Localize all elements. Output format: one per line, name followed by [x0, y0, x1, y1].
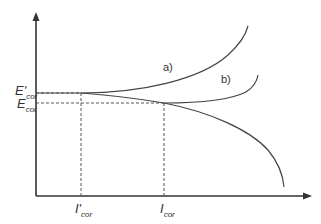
i-prime-cor-sub: cor: [81, 210, 92, 219]
x-axis-arrow-icon: [303, 193, 312, 200]
curve-cathodic: [81, 93, 284, 187]
i-cor-label: Icor: [160, 202, 175, 215]
i-cor-sub: cor: [164, 210, 175, 219]
curve-a: [36, 26, 248, 93]
curve-b-label: b): [221, 74, 231, 85]
e-cor-sub: cor: [26, 105, 37, 114]
i-prime-cor-label: I'cor: [75, 202, 92, 215]
curve-a-label: a): [163, 62, 173, 73]
y-axis-arrow-icon: [33, 12, 40, 21]
curve-b: [164, 75, 258, 103]
diagram-canvas: [0, 0, 321, 224]
e-cor-label: Ecor: [17, 97, 37, 110]
e-cor-main: E: [17, 96, 26, 111]
